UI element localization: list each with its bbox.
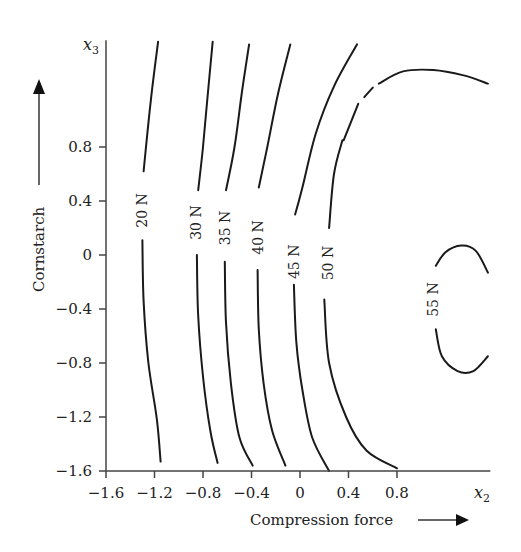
- x-variable-label: x2: [474, 483, 490, 505]
- y-axis-arrow-icon: [33, 79, 45, 94]
- y-axis-title-group: Cornstarch: [30, 79, 48, 292]
- x-tick-label: 0.8: [385, 484, 409, 502]
- contour-line-50n: [379, 70, 488, 84]
- contour-line-50n: [329, 140, 342, 228]
- contour-55n: [436, 246, 488, 373]
- contour-50n: [324, 70, 488, 469]
- y-tick-label: −1.6: [56, 462, 92, 480]
- contour-line-20n: [144, 42, 159, 172]
- y-tick-label: −1.2: [56, 408, 92, 426]
- contour-lines: [142, 42, 488, 471]
- contour-line-30n: [197, 255, 218, 463]
- x-tick-label: 0: [295, 484, 305, 502]
- contour-label-55n: 55 N: [425, 282, 441, 317]
- x-tick-label: −0.8: [185, 484, 221, 502]
- x-axis-title: Compression force: [250, 511, 393, 529]
- contour-line-35n: [225, 262, 253, 466]
- y-tick-label: −0.8: [56, 354, 92, 372]
- contour-line-40n: [258, 270, 286, 466]
- contour-label-20n: 20 N: [134, 193, 150, 228]
- contour-label-35n: 35 N: [217, 211, 233, 246]
- contour-chart: 20 N30 N35 N40 N45 N50 N55 N −1.6−1.2−0.…: [0, 0, 521, 552]
- contour-line-35n: [226, 44, 249, 190]
- contour-label-30n: 30 N: [188, 205, 204, 240]
- contour-line-45n: [294, 285, 329, 471]
- contour-label-40n: 40 N: [250, 220, 266, 255]
- contour-label-50n: 50 N: [320, 246, 336, 281]
- contour-line-40n: [259, 44, 291, 187]
- contour-label-45n: 45 N: [286, 245, 302, 280]
- x-tick-label: −0.4: [233, 484, 269, 502]
- y-variable-label: x3: [83, 35, 99, 57]
- y-tick-label: −0.4: [56, 300, 92, 318]
- x-tick-label: −1.2: [136, 484, 172, 502]
- contour-line-30n: [198, 42, 213, 191]
- y-tick-label: 0: [82, 246, 92, 264]
- x-axis-ticks: −1.6−1.2−0.8−0.400.40.8: [88, 471, 409, 502]
- contour-line-55n: [436, 246, 488, 273]
- y-tick-label: 0.8: [68, 138, 92, 156]
- x-tick-label: −1.6: [88, 484, 124, 502]
- y-axis-ticks: −1.6−1.2−0.8−0.400.40.8: [56, 138, 106, 480]
- x-axis-arrow-icon: [456, 514, 469, 526]
- y-tick-label: 0.4: [68, 192, 92, 210]
- y-axis-title: Cornstarch: [30, 206, 48, 292]
- contour-labels: 20 N30 N35 N40 N45 N50 N55 N: [134, 193, 441, 317]
- contour-line-20n: [142, 240, 160, 461]
- contour-line-50n: [324, 300, 397, 469]
- x-axis-title-group: Compression force: [250, 511, 469, 529]
- contour-20n: [142, 42, 160, 462]
- contour-line-50n: [344, 104, 359, 141]
- x-tick-label: 0.4: [337, 484, 361, 502]
- contour-30n: [197, 42, 218, 463]
- contour-line-55n: [436, 329, 488, 373]
- contour-line-50n: [364, 88, 373, 98]
- contour-35n: [225, 44, 253, 465]
